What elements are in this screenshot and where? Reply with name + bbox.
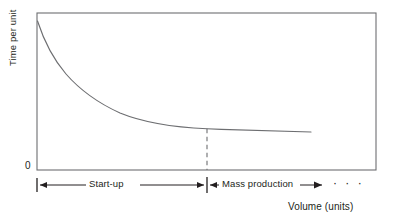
y-axis-title-text: Time per unit <box>8 52 18 66</box>
learning-curve-figure: Time per unit 0 Start-up Mass production… <box>0 0 398 221</box>
y-axis-origin-label: 0 <box>25 161 31 171</box>
mass-arrowhead-right <box>314 182 322 189</box>
mass-arrowhead-left <box>210 182 217 188</box>
x-axis-title: Volume (units) <box>288 202 353 212</box>
startup-arrowhead-left <box>40 182 47 188</box>
learning-curve-series <box>38 21 312 132</box>
startup-phase-label: Start-up <box>89 179 124 189</box>
continuation-ellipsis: · · · <box>333 177 364 189</box>
y-axis-title: Time per unit <box>8 52 18 66</box>
mass-production-phase-label: Mass production <box>222 179 293 189</box>
curve-path <box>38 21 312 132</box>
startup-arrowhead-right <box>197 182 204 188</box>
